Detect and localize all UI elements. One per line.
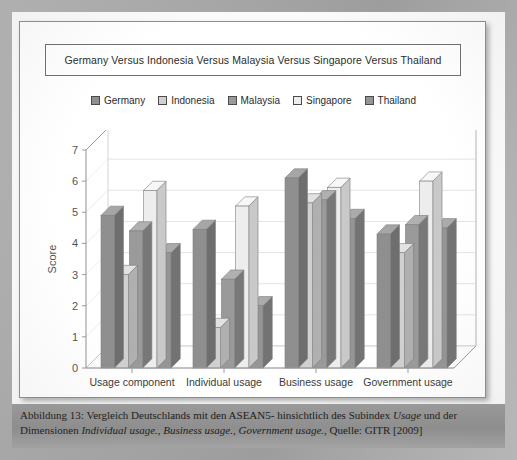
caption-line-1-post: und der — [421, 409, 457, 421]
chart-title-box: Germany Versus Indonesia Versus Malaysia… — [45, 44, 461, 76]
caption-line-1-italic: Usage — [393, 409, 421, 421]
chart-panel: Germany Versus Indonesia Versus Malaysia… — [19, 21, 486, 398]
caption-line-1-pre: Abbildung 13: Vergleich Deutschlands mit… — [20, 409, 393, 421]
scanned-page: Germany Versus Indonesia Versus Malaysia… — [0, 0, 517, 460]
bar — [193, 220, 215, 368]
legend-swatch-indonesia — [158, 96, 167, 105]
legend-label-thailand: Thailand — [378, 95, 416, 106]
bar — [377, 225, 399, 368]
legend-swatch-thailand — [365, 96, 374, 105]
y-axis-tick-label: 4 — [72, 237, 78, 249]
y-axis-tick-label: 1 — [72, 331, 78, 343]
chart-legend: Germany Indonesia Malaysia Singapore Tha… — [20, 95, 487, 106]
caption-source: , Quelle: GITR [2009] — [324, 424, 422, 436]
figure-caption: Abbildung 13: Vergleich Deutschlands mit… — [12, 404, 505, 448]
bar — [285, 169, 307, 368]
x-axis-category-label: Government usage — [363, 376, 452, 388]
legend-swatch-germany — [91, 96, 100, 105]
legend-label-singapore: Singapore — [306, 95, 352, 106]
chart-title: Germany Versus Indonesia Versus Malaysia… — [64, 54, 441, 66]
caption-dim-individual: Individual usage. — [81, 424, 157, 436]
x-axis-category-label: Individual usage — [186, 376, 262, 388]
caption-line-2-pre: Dimensionen — [20, 424, 81, 436]
legend-item-indonesia: Indonesia — [158, 95, 214, 106]
legend-swatch-malaysia — [228, 96, 237, 105]
caption-line-1: Abbildung 13: Vergleich Deutschlands mit… — [20, 408, 497, 423]
y-axis-tick-label: 7 — [72, 144, 78, 156]
legend-label-indonesia: Indonesia — [171, 95, 214, 106]
caption-line-2: Dimensionen Individual usage., Business … — [20, 423, 497, 438]
caption-dim-business: Business usage. — [163, 424, 233, 436]
x-axis-category-label: Business usage — [279, 376, 353, 388]
y-axis-tick-label: 2 — [72, 300, 78, 312]
legend-item-germany: Germany — [91, 95, 145, 106]
x-axis-category-label: Usage component — [89, 376, 174, 388]
y-axis-tick-label: 0 — [72, 362, 78, 374]
y-axis-tick-label: 5 — [72, 206, 78, 218]
bar — [101, 206, 123, 368]
legend-item-singapore: Singapore — [293, 95, 352, 106]
legend-swatch-singapore — [293, 96, 302, 105]
bar-chart-plot-area: 01234567ScoreUsage componentIndividual u… — [42, 130, 482, 395]
bar-chart-svg: 01234567ScoreUsage componentIndividual u… — [42, 130, 482, 395]
gridline-depth — [86, 190, 108, 212]
y-axis-tick-label: 3 — [72, 269, 78, 281]
legend-item-malaysia: Malaysia — [228, 95, 280, 106]
y-axis-top-cap — [86, 130, 108, 150]
legend-label-malaysia: Malaysia — [241, 95, 280, 106]
y-axis-title: Score — [46, 245, 58, 274]
y-axis-tick-label: 6 — [72, 175, 78, 187]
gridline-depth — [86, 159, 108, 181]
caption-dim-government: Government usage. — [238, 424, 324, 436]
legend-item-thailand: Thailand — [365, 95, 416, 106]
legend-label-germany: Germany — [104, 95, 145, 106]
